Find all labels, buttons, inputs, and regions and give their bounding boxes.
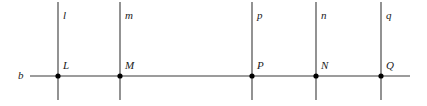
point-dot-P xyxy=(249,73,254,78)
baseline-label-b: b xyxy=(18,70,24,81)
line-label-n: n xyxy=(321,10,327,21)
line-label-q: q xyxy=(386,10,392,21)
line-label-m: m xyxy=(125,10,133,21)
point-label-M: M xyxy=(125,60,134,71)
line-label-p: p xyxy=(257,10,263,21)
point-label-N: N xyxy=(321,60,328,71)
point-dot-M xyxy=(117,73,122,78)
geometry-figure: b lmpnq LMPNQ xyxy=(0,0,427,106)
point-label-L: L xyxy=(63,60,69,71)
point-dot-N xyxy=(313,73,318,78)
point-label-P: P xyxy=(257,60,264,71)
line-label-l: l xyxy=(63,10,66,21)
point-dot-L xyxy=(55,73,60,78)
vertical-lines-group xyxy=(58,2,381,100)
point-dot-Q xyxy=(378,73,383,78)
point-label-Q: Q xyxy=(386,60,394,71)
